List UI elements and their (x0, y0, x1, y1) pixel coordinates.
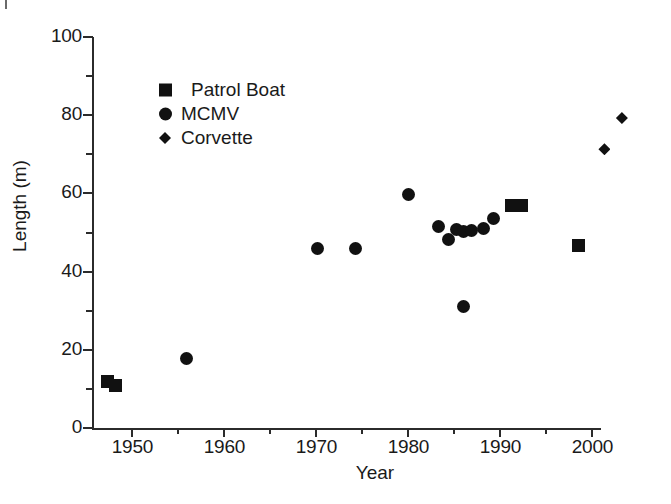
x-axis-line (92, 428, 601, 430)
y-tick-major (83, 349, 93, 351)
diamond-marker-icon (157, 126, 181, 150)
square-marker-icon (157, 78, 181, 102)
data-point-diamond (616, 112, 628, 124)
data-point-circle (487, 212, 500, 225)
legend-label: Corvette (181, 127, 253, 149)
y-tick-label: 100 (26, 25, 82, 47)
y-tick-label: 0 (26, 416, 82, 438)
legend-label: Patrol Boat (181, 79, 285, 101)
y-axis-title: Length (m) (9, 141, 31, 271)
legend-item-patrol-boat[interactable]: Patrol Boat (157, 78, 285, 102)
y-tick-minor (86, 388, 93, 390)
data-point-circle (477, 222, 490, 235)
y-tick-label: 60 (26, 181, 82, 203)
y-tick-minor (86, 75, 93, 77)
x-tick-minor (361, 428, 363, 434)
legend-label: MCMV (181, 103, 239, 125)
y-tick-major (83, 427, 93, 429)
chart-legend: Patrol BoatMCMVCorvette (157, 78, 285, 150)
data-point-square (109, 379, 122, 392)
page-corner-mark (5, 0, 7, 9)
legend-item-mcmv[interactable]: MCMV (157, 102, 285, 126)
legend-item-corvette[interactable]: Corvette (157, 126, 285, 150)
y-tick-label: 20 (26, 338, 82, 360)
y-tick-label: 40 (26, 260, 82, 282)
x-tick-label: 2000 (552, 436, 632, 458)
y-axis-line (92, 37, 94, 430)
data-point-circle (311, 242, 324, 255)
y-tick-major (83, 36, 93, 38)
circle-marker-icon (157, 102, 181, 126)
x-tick-label: 1970 (276, 436, 356, 458)
data-point-circle (457, 300, 470, 313)
data-point-square (572, 239, 585, 252)
x-tick-minor (269, 428, 271, 434)
y-tick-minor (86, 153, 93, 155)
x-tick-minor (453, 428, 455, 434)
y-axis-tick-labels: 020406080100 (26, 0, 82, 504)
x-tick-label: 1960 (184, 436, 264, 458)
data-point-circle (402, 188, 415, 201)
data-point-diamond (598, 143, 610, 155)
data-point-circle (180, 352, 193, 365)
data-point-square (515, 199, 528, 212)
x-tick-minor (177, 428, 179, 434)
data-point-circle (432, 220, 445, 233)
y-tick-label: 80 (26, 103, 82, 125)
x-axis-title: Year (315, 462, 435, 484)
x-tick-minor (545, 428, 547, 434)
data-point-circle (349, 242, 362, 255)
y-tick-minor (86, 232, 93, 234)
y-tick-minor (86, 310, 93, 312)
x-tick-label: 1950 (92, 436, 172, 458)
y-tick-major (83, 271, 93, 273)
x-tick-label: 1980 (368, 436, 448, 458)
scatter-plot-figure: 195019601970198019902000 020406080100 Pa… (0, 0, 671, 504)
x-tick-label: 1990 (460, 436, 540, 458)
y-tick-major (83, 192, 93, 194)
y-tick-major (83, 114, 93, 116)
